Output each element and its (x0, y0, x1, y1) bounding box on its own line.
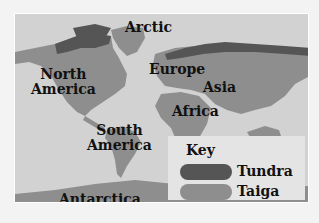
world-map: Arctic North America Europe Asia Africa … (14, 13, 309, 203)
label-north-america: North America (31, 67, 96, 97)
label-south-america-text: South America (87, 122, 152, 153)
tundra-swatch (180, 164, 232, 180)
label-south-america: South America (87, 123, 152, 153)
taiga-swatch (180, 184, 232, 200)
tundra-label: Tundra (237, 163, 293, 179)
label-africa: Africa (172, 104, 219, 119)
map-key: Key Tundra Taiga (168, 136, 305, 200)
label-antarctica: Antarctica (59, 192, 141, 203)
key-title: Key (186, 142, 215, 158)
label-europe: Europe (149, 62, 205, 77)
taiga-label: Taiga (237, 183, 279, 199)
label-north-america-text: North America (31, 66, 96, 97)
label-asia: Asia (203, 80, 236, 95)
label-arctic: Arctic (125, 20, 172, 35)
